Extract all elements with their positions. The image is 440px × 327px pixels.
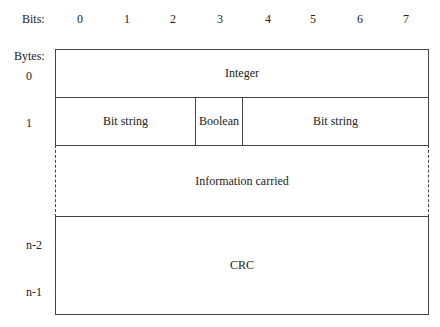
bit-string-left-field: Bit string [55, 97, 196, 146]
bit-6: 6 [350, 12, 370, 27]
bit-3: 3 [210, 12, 230, 27]
bit-string-right-label: Bit string [313, 114, 358, 129]
bit-2: 2 [163, 12, 183, 27]
bit-string-left-label: Bit string [103, 114, 148, 129]
bit-string-right-field: Bit string [242, 97, 429, 146]
bit-4: 4 [258, 12, 278, 27]
byte-1-label: 1 [26, 116, 32, 130]
integer-label: Integer [225, 66, 259, 81]
boolean-field: Boolean [195, 97, 243, 146]
crc-field: CRC [55, 216, 429, 315]
information-carried-field: Information carried [55, 145, 429, 217]
boolean-label: Boolean [199, 114, 239, 129]
integer-field: Integer [55, 49, 429, 98]
information-carried-label: Information carried [195, 174, 289, 189]
bit-7: 7 [396, 12, 416, 27]
bits-label: Bits: [22, 12, 45, 26]
bit-1: 1 [117, 12, 137, 27]
bit-0: 0 [70, 12, 90, 27]
bytes-label: Bytes: [14, 49, 45, 63]
crc-label: CRC [230, 258, 254, 273]
byte-n1-label: n-1 [26, 285, 42, 299]
bit-5: 5 [303, 12, 323, 27]
byte-n2-label: n-2 [26, 238, 42, 252]
byte-0-label: 0 [26, 69, 32, 83]
